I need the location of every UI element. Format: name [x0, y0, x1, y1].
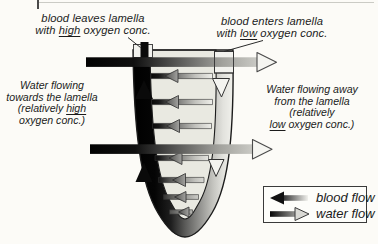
legend-blood-flow-label: blood flow — [316, 190, 375, 206]
label-line: blood enters lamella — [192, 15, 352, 27]
underlined-word: low — [240, 27, 257, 39]
blood-flow-arrow-icon — [269, 190, 311, 206]
underlined-word: low — [270, 118, 286, 130]
underlined-word: high — [59, 24, 81, 36]
flow-legend: blood flow water flow — [263, 186, 367, 223]
legend-row-water-flow: water flow — [269, 206, 375, 222]
label-blood-leaves-lamella: blood leaves lamella with high oxygen co… — [13, 12, 173, 36]
legend-row-blood-flow: blood flow — [269, 190, 375, 206]
label-line: Water flowing — [0, 80, 104, 92]
label-blood-enters-lamella: blood enters lamella with low oxygen con… — [192, 15, 352, 39]
label-line: low oxygen conc.) — [246, 119, 378, 131]
underlined-word: high — [66, 102, 86, 114]
legend-water-flow-label: water flow — [316, 206, 375, 222]
label-line: blood leaves lamella — [13, 12, 173, 24]
water-flow-arrow-icon — [269, 206, 311, 222]
label-line: with low oxygen conc. — [192, 27, 352, 39]
label-line: with high oxygen conc. — [13, 24, 173, 36]
pointer-blood-enters — [224, 41, 263, 52]
label-line: (relatively high — [0, 103, 104, 115]
label-line: oxygen conc.) — [0, 115, 104, 127]
label-water-flowing-towards: Water flowing towards the lamella (relat… — [0, 80, 104, 126]
label-line: Water flowing away — [246, 84, 378, 96]
label-water-flowing-away: Water flowing away from the lamella (rel… — [246, 84, 378, 130]
